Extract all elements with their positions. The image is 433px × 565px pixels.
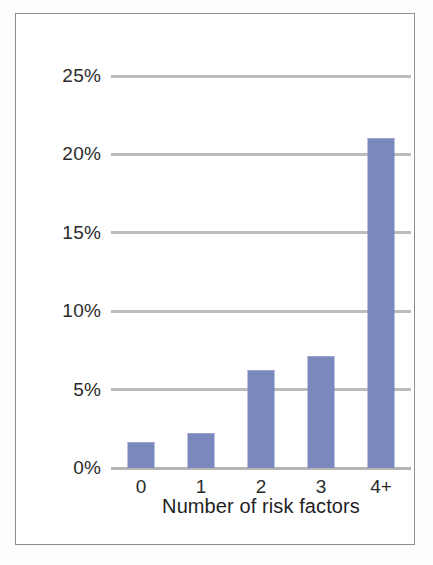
bar	[188, 433, 215, 468]
y-axis-tick-label: 10%	[62, 300, 101, 322]
plot-area: 0%5%10%15%20%25% 01234+	[111, 76, 411, 468]
bar-group: 4+	[351, 76, 411, 468]
chart-figure: 0%5%10%15%20%25% 01234+ Number of risk f…	[0, 0, 433, 565]
bar	[308, 356, 335, 468]
bar	[248, 370, 275, 468]
bar	[128, 442, 155, 468]
chart-frame: 0%5%10%15%20%25% 01234+ Number of risk f…	[15, 13, 415, 545]
bar-group: 0	[111, 76, 171, 468]
y-axis-tick-label: 15%	[62, 222, 101, 244]
x-axis-title: Number of risk factors	[111, 495, 411, 518]
bar-group: 2	[231, 76, 291, 468]
y-axis-tick-label: 20%	[62, 143, 101, 165]
y-axis-tick-label: 0%	[73, 457, 101, 479]
y-axis-tick-label: 25%	[62, 65, 101, 87]
bar-group: 1	[171, 76, 231, 468]
bar-series: 01234+	[111, 76, 411, 468]
bar	[368, 138, 395, 468]
y-axis-tick-label: 5%	[73, 379, 101, 401]
bar-group: 3	[291, 76, 351, 468]
